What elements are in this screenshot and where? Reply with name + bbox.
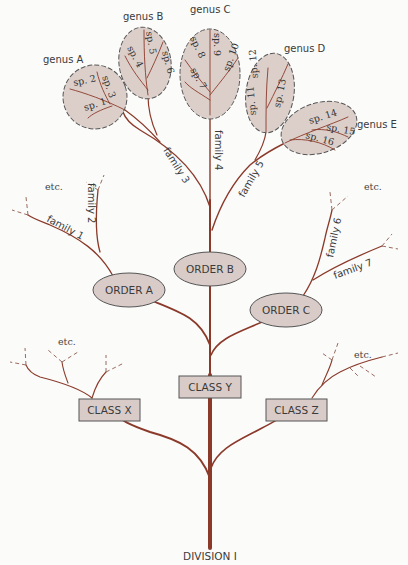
branch-family-3-to-genus-a (125, 110, 160, 142)
etc-label-order-a: etc. (45, 181, 63, 192)
genus-a-label: genus A (43, 54, 84, 65)
order-b-node: ORDER B (174, 252, 246, 286)
etc-label-order-c: etc. (364, 181, 382, 192)
svg-text:CLASS Z: CLASS Z (274, 404, 318, 416)
svg-text:sp. 12: sp. 12 (246, 49, 259, 79)
genus-d-label: genus D (284, 43, 326, 54)
branch-family-3 (123, 112, 210, 207)
family-4-label: family 4 (213, 130, 224, 170)
etc-label-class-x: etc. (58, 336, 76, 347)
svg-text:ORDER C: ORDER C (262, 304, 310, 316)
genus-c-label: genus C (190, 4, 231, 15)
class-x-node: CLASS X (79, 399, 140, 421)
family-2-label: family 2 (86, 183, 97, 223)
svg-text:ORDER B: ORDER B (186, 263, 234, 275)
branch-order-c (211, 322, 262, 355)
genus-e-label: genus E (357, 119, 397, 130)
order-a-node: ORDER A (93, 273, 165, 307)
taxonomy-tree-diagram: etc. etc. etc. etc. sp. 2 sp. 3 sp. 1 ge… (0, 0, 408, 565)
genus-c-leaf: sp. 9 sp. 8 sp. 7 sp. 10 (180, 29, 241, 119)
family-7-label: family 7 (332, 257, 374, 281)
family-1-label: family 1 (45, 213, 86, 242)
class-y-node: CLASS Y (179, 376, 241, 398)
branch-family-5-to-genus-d (255, 132, 266, 160)
genus-b-label: genus B (123, 11, 164, 22)
branch-family-3-to-genus-b (148, 95, 157, 135)
svg-text:CLASS Y: CLASS Y (188, 381, 232, 393)
family-3-label: family 3 (161, 145, 192, 185)
svg-text:sp. 9: sp. 9 (212, 33, 223, 56)
class-z-node: CLASS Z (266, 399, 327, 421)
etc-label-class-z: etc. (354, 349, 372, 360)
branch-class-x (112, 412, 210, 478)
family-6-label: family 6 (324, 217, 343, 259)
branch-order-a (150, 300, 210, 345)
svg-text:ORDER A: ORDER A (105, 284, 154, 296)
svg-text:CLASS X: CLASS X (87, 404, 131, 416)
division-label: DIVISION I (183, 550, 237, 562)
order-c-node: ORDER C (250, 293, 322, 327)
